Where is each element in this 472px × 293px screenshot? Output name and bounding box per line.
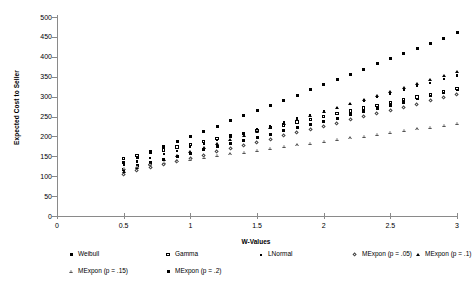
data-point: [428, 126, 432, 129]
data-point: [176, 140, 179, 143]
data-point: [202, 130, 205, 133]
data-point: [282, 129, 285, 132]
data-point: [215, 154, 219, 157]
data-point: [442, 37, 445, 40]
legend-item[interactable]: MExpon (p = .05): [352, 250, 412, 257]
data-point: [376, 62, 379, 65]
data-point: [162, 148, 165, 151]
data-point: [269, 104, 272, 107]
legend-label: MExpon (p = .1): [425, 250, 471, 257]
data-point: [402, 86, 406, 89]
legend-marker-icon: [165, 267, 171, 274]
data-point: [389, 104, 392, 107]
y-tick-label: 100: [22, 173, 52, 180]
data-point: [268, 126, 272, 129]
y-tick-label: 500: [22, 14, 52, 21]
data-point: [388, 108, 393, 113]
data-point: [362, 106, 365, 109]
data-point: [375, 111, 380, 116]
data-point: [309, 88, 312, 91]
data-point: [322, 83, 325, 86]
data-point: [415, 95, 418, 98]
data-point: [241, 143, 246, 148]
data-point: [148, 166, 153, 171]
data-point: [256, 136, 259, 139]
data-point: [388, 90, 392, 93]
data-point: [322, 110, 326, 113]
legend-item[interactable]: Gamma: [165, 250, 198, 257]
data-point: [429, 82, 431, 84]
legend-item[interactable]: MExpon (p = .1): [415, 250, 471, 257]
data-point: [162, 161, 166, 164]
legend-label: MExpon (p = .2): [175, 267, 221, 274]
data-point: [321, 124, 326, 129]
legend-item[interactable]: Weibull: [68, 250, 99, 257]
data-point: [308, 142, 312, 145]
data-point: [255, 149, 259, 152]
data-point: [416, 85, 418, 87]
data-point: [376, 107, 379, 110]
x-tick-label: 2.5: [375, 222, 405, 229]
data-point: [455, 87, 458, 90]
data-point: [216, 145, 219, 148]
data-point: [348, 102, 352, 105]
data-point: [401, 105, 406, 110]
data-point: [202, 146, 206, 149]
data-point: [122, 167, 126, 170]
y-tick-label: 350: [22, 73, 52, 80]
data-point: [362, 98, 366, 101]
data-point: [296, 126, 299, 129]
data-point: [308, 114, 312, 117]
data-point: [349, 73, 352, 76]
legend-marker-icon: [68, 250, 74, 257]
data-point: [388, 131, 392, 134]
data-point: [402, 129, 406, 132]
data-point: [322, 115, 325, 118]
data-point: [122, 170, 126, 173]
data-point: [362, 135, 366, 138]
data-point: [202, 148, 205, 151]
legend-item[interactable]: MExpon (p = .15): [68, 267, 128, 274]
data-point: [415, 127, 419, 130]
data-point: [415, 102, 420, 107]
data-point: [228, 152, 232, 155]
data-point: [455, 92, 460, 97]
legend-item[interactable]: MExpon (p = .2): [165, 267, 221, 274]
data-point: [136, 156, 139, 159]
legend-item[interactable]: LNormal: [258, 250, 293, 257]
data-point: [336, 78, 339, 81]
legend-label: MExpon (p = .15): [78, 267, 128, 274]
data-point: [175, 145, 178, 148]
data-point: [362, 110, 365, 113]
data-point: [308, 127, 313, 132]
data-point: [402, 52, 405, 55]
data-point: [148, 163, 152, 166]
data-point: [441, 96, 446, 101]
legend-marker-icon: [68, 267, 74, 274]
data-point: [162, 145, 165, 148]
x-tick-label: 1.5: [242, 222, 272, 229]
data-point: [269, 133, 272, 136]
data-point: [389, 57, 392, 60]
data-point: [295, 143, 299, 146]
legend-marker-icon: [352, 250, 358, 257]
data-point: [122, 157, 125, 160]
data-point: [335, 112, 338, 115]
data-point: [455, 70, 459, 73]
data-point: [322, 140, 326, 143]
legend-marker-icon: [165, 250, 171, 257]
x-tick-label: 1: [175, 222, 205, 229]
data-point: [255, 130, 259, 133]
y-tick-label: 50: [22, 193, 52, 200]
data-point: [242, 114, 245, 117]
data-point: [268, 137, 273, 142]
data-point: [229, 142, 232, 145]
data-point: [335, 121, 340, 126]
y-tick-label: 250: [22, 113, 52, 120]
data-point: [268, 147, 272, 150]
data-point: [349, 113, 352, 116]
data-point: [429, 42, 432, 45]
data-point: [256, 109, 259, 112]
data-point: [242, 151, 246, 154]
data-point: [375, 104, 378, 107]
